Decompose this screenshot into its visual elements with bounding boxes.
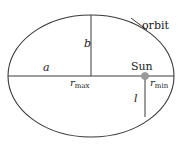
sun-focus-marker bbox=[141, 72, 148, 79]
r-min-subscript: min bbox=[155, 82, 168, 90]
r-min-label: rmin bbox=[150, 78, 168, 88]
semi-minor-axis-label: b bbox=[84, 38, 91, 49]
semi-major-axis-label: a bbox=[43, 62, 50, 73]
orbit-diagram: orbit a b rmax Sun rmin l bbox=[0, 0, 184, 146]
semi-latus-rectum-label: l bbox=[134, 93, 138, 104]
r-max-subscript: max bbox=[75, 82, 90, 90]
orbit-label: orbit bbox=[142, 20, 169, 31]
r-max-label: rmax bbox=[70, 78, 90, 88]
sun-label: Sun bbox=[131, 61, 153, 72]
